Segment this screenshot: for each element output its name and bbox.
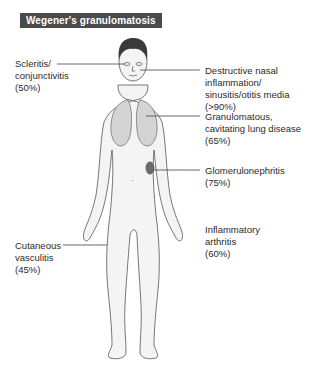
annotation-arthritis: Inflammatory arthritis (60%) [205,224,260,260]
annotation-scleritis: Scleritis/ conjunctivitis (50%) [15,58,69,94]
annotation-nasal: Destructive nasal inflammation/ sinusiti… [205,65,289,113]
annotation-lung: Granulomatous, cavitating lung disease (… [205,111,301,147]
kidney [146,162,155,175]
annotation-glomerulonephritis: Glomerulonephritis (75%) [205,165,285,189]
body-outline [83,85,182,359]
annotation-vasculitis: Cutaneous vasculitis (45%) [15,240,61,276]
